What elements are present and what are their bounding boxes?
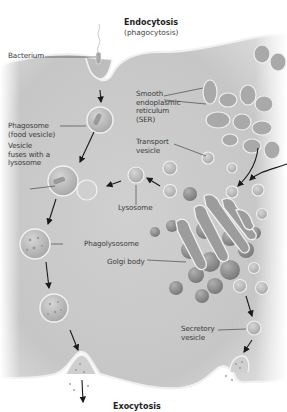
phagosome-shape (87, 107, 113, 133)
label-phagolysosome: Phagolysosome (84, 240, 139, 249)
label-lysosome: Lysosome (118, 204, 153, 213)
label-bacterium: Bacterium (8, 52, 44, 61)
endocytosis-title: Endocytosis (124, 18, 178, 27)
residual-body-shape (40, 294, 68, 322)
label-phagosome: Phagosome (food vesicle) (8, 122, 55, 139)
secretory-vesicle-shape (247, 321, 261, 335)
phagolysosome-shape (20, 229, 50, 259)
label-transport-vesicle: Transport vesicle (136, 138, 169, 155)
bacterium-shape (96, 52, 101, 64)
lysosome-shape (128, 167, 144, 183)
endocytosis-exocytosis-diagram: Endocytosis (phagocytosis) Exocytosis Ba… (0, 0, 287, 412)
label-golgi-body: Golgi body (107, 258, 145, 267)
endocytosis-subtitle: (phagocytosis) (124, 28, 179, 37)
exocytosis-title: Exocytosis (113, 402, 161, 411)
label-secretory-vesicle: Secretory vesicle (181, 325, 215, 342)
label-ser: Smooth endoplasmic reticulum (SER) (136, 90, 181, 124)
label-vesicle-fuses: Vesicle fuses with a lysosome (8, 142, 50, 168)
